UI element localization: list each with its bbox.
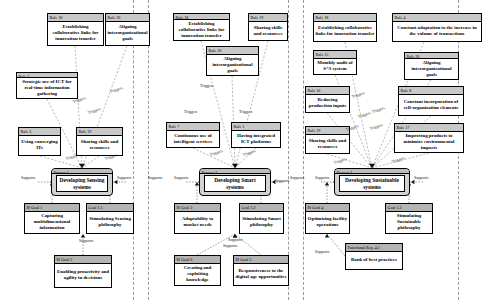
- edge-label: Triggers: [351, 91, 365, 100]
- node-fr61[interactable]: Functional Req. 4.1Bank of best practice…: [345, 243, 403, 270]
- node-p1[interactable]: Process 1Developing Sensing systems: [51, 168, 113, 196]
- edge-label: Triggers: [209, 149, 223, 158]
- node-g13[interactable]: Goal 1.3Stimulating Sustainable philosop…: [385, 203, 433, 234]
- node-stereotype: Goal 1.3: [386, 204, 432, 212]
- node-r16[interactable]: Rule 16Reducing production inputs: [305, 86, 350, 113]
- node-r19a[interactable]: Rule 19Sharing skills and resources: [248, 13, 288, 41]
- node-stereotype: Rule 18: [314, 14, 376, 22]
- node-stereotype: Process 3: [335, 169, 409, 174]
- node-g3[interactable]: IS Goal 3Adaptability to market needs: [174, 203, 221, 234]
- node-stereotype: Process 1: [52, 169, 112, 174]
- lane-divider-4: [303, 0, 304, 300]
- node-stereotype: IS Goal 1: [25, 204, 79, 212]
- edge-label: Supports: [21, 176, 35, 181]
- edge-label: Supports: [228, 238, 242, 243]
- edge-label: Triggers: [200, 84, 213, 89]
- edge-label: Supports: [174, 176, 188, 181]
- node-label: Optimizing facility operations: [306, 212, 349, 233]
- node-r1[interactable]: Rule 1Having integrated ICT platforms: [231, 122, 281, 148]
- node-g2[interactable]: IS Goal 2Enabling proactivity and agilit…: [54, 255, 112, 288]
- connector: [82, 156, 99, 168]
- node-label: Sharing skills and resources: [249, 22, 287, 40]
- node-r20c[interactable]: Rule 20Aligning interorganizational goal…: [404, 52, 459, 80]
- edge-label: Supports: [414, 176, 428, 181]
- node-stereotype: Rule 20: [106, 14, 149, 22]
- node-stereotype: Rule 17: [395, 124, 463, 132]
- node-label: Establishing collaborative links for inn…: [174, 20, 229, 40]
- node-g1[interactable]: IS Goal 1Capturing multidimensional info…: [24, 203, 80, 234]
- edge-label: Triggers: [65, 153, 79, 162]
- edge-label: Triggers: [371, 106, 385, 115]
- edge-label: Supports: [148, 176, 162, 181]
- node-stereotype: Rule 19: [306, 127, 349, 135]
- node-label: Developing Smart systems: [204, 175, 266, 192]
- node-r18c[interactable]: Rule 18Establishing collaborative links …: [313, 13, 377, 42]
- node-label: Developing Sensing systems: [56, 175, 108, 192]
- edge-label: Supports: [117, 176, 131, 181]
- node-label: Stimulating Sensing philosophy: [87, 212, 133, 233]
- node-stereotype: IS Goal 3: [175, 204, 220, 212]
- node-r7[interactable]: Rule 7Continuous use of intelligent serv…: [166, 122, 220, 148]
- node-r18b[interactable]: Rule 18Establishing collaborative links …: [173, 13, 230, 41]
- node-stereotype: Rule 16: [306, 87, 349, 95]
- edge-label: Supports: [315, 176, 329, 181]
- node-stereotype: Rule 8: [399, 87, 463, 95]
- node-g12[interactable]: Goal 1.2Stimulating Smart philosophy: [239, 203, 284, 234]
- node-g5[interactable]: IS Goal 5Responsiveness to the digital a…: [233, 255, 289, 286]
- node-r3[interactable]: Rule 3Using converging ITs: [18, 127, 61, 156]
- node-label: Responsiveness to the digital age opport…: [234, 264, 288, 285]
- node-label: Establishing collaborative links for inn…: [314, 22, 376, 41]
- edge-label: Supports: [290, 176, 304, 181]
- edge-label: Supports: [315, 250, 329, 255]
- edge-label: Triggers: [333, 157, 347, 166]
- node-stereotype: Rule 15: [314, 51, 356, 59]
- node-p3[interactable]: Process 3Developing Sustainable systems: [334, 168, 410, 196]
- edge-label: Supports: [79, 239, 93, 244]
- node-stereotype: IS Goal 6: [175, 256, 220, 264]
- node-label: Bank of best practices: [346, 252, 402, 269]
- node-r4[interactable]: Rule 4Constant adaptation to the increas…: [392, 13, 482, 42]
- node-stereotype: Rule 1: [232, 123, 280, 131]
- node-r18a[interactable]: Rule 18Establishing collaborative links …: [47, 13, 104, 46]
- node-stereotype: Functional Req. 4.1: [346, 244, 402, 252]
- node-r20b[interactable]: Rule 20Aligning interorganizational goal…: [206, 46, 259, 76]
- edge-label: Triggers: [239, 110, 252, 115]
- node-label: Stimulating Smart philosophy: [240, 212, 283, 233]
- edge-label: Triggers: [104, 153, 118, 162]
- node-stereotype: Rule 20: [207, 47, 258, 55]
- node-label: Strategic use of ICT for real-time infor…: [17, 78, 77, 98]
- edge-label: Triggers: [72, 96, 86, 105]
- node-p2[interactable]: Process 2Developing Smart systems: [199, 168, 271, 196]
- edge-label: Supports: [275, 179, 289, 184]
- node-r15[interactable]: Rule 15Monthly audit of S^3 system: [313, 50, 357, 75]
- node-r19c[interactable]: Rule 19Sharing skills and resources: [305, 126, 350, 154]
- connector: [327, 234, 345, 256]
- node-stereotype: IS Goal 2: [55, 256, 111, 264]
- edge-label: Triggers: [345, 124, 359, 133]
- edge-label: Triggers: [109, 86, 123, 95]
- node-r20a[interactable]: Rule 20Aligning interorganizational goal…: [105, 13, 150, 46]
- edge-label: Triggers: [369, 123, 383, 132]
- node-g4[interactable]: IS Goal 4Optimizing facility operations: [305, 203, 350, 234]
- node-label: Capturing multidimensional information: [25, 212, 79, 233]
- node-label: Constant adaptation to the increase in t…: [393, 22, 481, 41]
- node-label: Developing Sustainable systems: [339, 175, 405, 192]
- node-stereotype: IS Goal 5: [234, 256, 288, 264]
- edge-label: Supports: [223, 244, 237, 249]
- node-r2[interactable]: Rule 2Strategic use of ICT for real-time…: [16, 72, 78, 99]
- arrowhead: [325, 182, 329, 185]
- edge-label: Triggers: [391, 156, 405, 165]
- node-r17[interactable]: Rule 17Improving products to minimize en…: [394, 123, 464, 153]
- node-label: Reducing production inputs: [306, 95, 349, 112]
- node-label: Aligning interorganizational goals: [207, 55, 258, 75]
- node-g6[interactable]: IS Goal 6Creating and exploiting knowled…: [174, 255, 221, 286]
- node-label: Improving products to minimize environme…: [395, 132, 463, 152]
- node-stereotype: Rule 18: [48, 14, 103, 22]
- node-r8[interactable]: Rule 8Constant incorporation of self-org…: [398, 86, 464, 116]
- node-label: Using converging ITs: [19, 136, 60, 155]
- node-stereotype: Rule 19: [249, 14, 287, 22]
- node-label: Enabling proactivity and agility in deci…: [55, 264, 111, 287]
- node-g11[interactable]: Goal 1.1Stimulating Sensing philosophy: [86, 203, 134, 234]
- arrowhead: [81, 234, 85, 237]
- edge-label: Triggers: [87, 107, 101, 116]
